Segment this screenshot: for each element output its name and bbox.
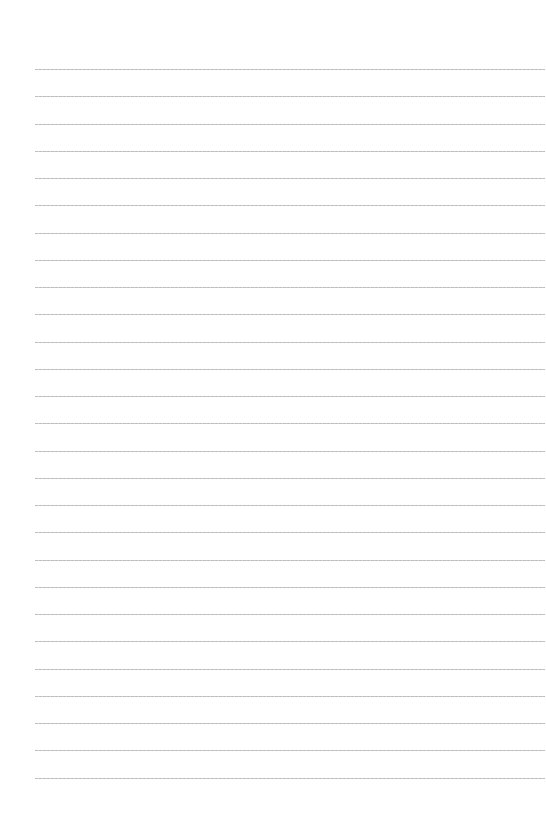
ruled-line	[35, 124, 545, 125]
ruled-line	[35, 233, 545, 234]
ruled-line	[35, 396, 545, 397]
ruled-line	[35, 151, 545, 152]
ruled-line	[35, 451, 545, 452]
ruled-line	[35, 641, 545, 642]
ruled-line	[35, 778, 545, 779]
ruled-line	[35, 342, 545, 343]
ruled-line	[35, 314, 545, 315]
ruled-line	[35, 478, 545, 479]
ruled-line	[35, 614, 545, 615]
ruled-line	[35, 696, 545, 697]
ruled-line	[35, 505, 545, 506]
ruled-line	[35, 750, 545, 751]
ruled-line	[35, 532, 545, 533]
ruled-line	[35, 96, 545, 97]
ruled-line	[35, 423, 545, 424]
ruled-line	[35, 369, 545, 370]
ruled-line	[35, 205, 545, 206]
ruled-line	[35, 587, 545, 588]
ruled-line	[35, 260, 545, 261]
ruled-line	[35, 69, 545, 70]
ruled-line	[35, 287, 545, 288]
lined-paper-page	[0, 0, 546, 833]
ruled-line	[35, 178, 545, 179]
ruled-line	[35, 723, 545, 724]
ruled-line	[35, 560, 545, 561]
ruled-line	[35, 669, 545, 670]
